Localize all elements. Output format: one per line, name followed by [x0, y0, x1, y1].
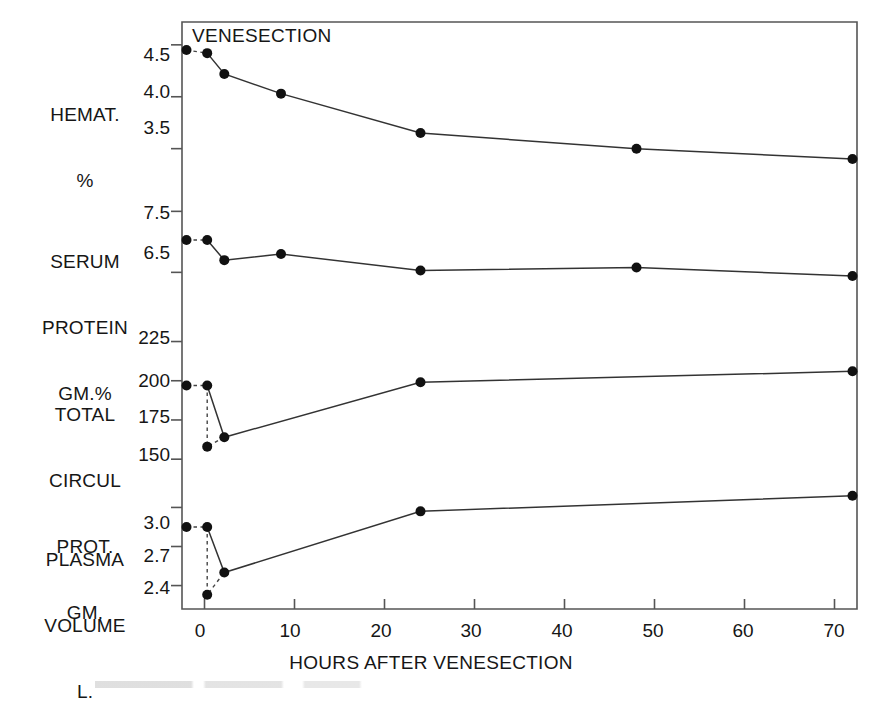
- series-hemat--line: [207, 53, 852, 159]
- series-serum-protein-gm--point-4: [632, 262, 642, 272]
- series-plasma-volume-l--point-drop: [202, 590, 212, 600]
- series-total-circul-prot-gm--point-3: [848, 366, 858, 376]
- series-total-circul-prot-gm--point-0: [202, 380, 212, 390]
- series-plasma-volume-l--point-2: [416, 506, 426, 516]
- series-plasma-volume-l--line: [207, 496, 852, 573]
- series-hemat--point-pre: [182, 45, 192, 55]
- series-hemat--point-4: [632, 144, 642, 154]
- plot-frame: [182, 22, 857, 609]
- series-serum-protein-gm--point-1: [219, 255, 229, 265]
- series-hemat--point-3: [416, 128, 426, 138]
- series-plasma-volume-l--point-0: [202, 522, 212, 532]
- series-plasma-volume-l--dashed-drop: [207, 527, 224, 595]
- series-total-circul-prot-gm--point-drop: [202, 442, 212, 452]
- series-total-circul-prot-gm--line: [207, 371, 852, 437]
- series-serum-protein-gm--line: [207, 240, 852, 276]
- series-serum-protein-gm--point-5: [848, 271, 858, 281]
- series-total-circul-prot-gm--point-1: [219, 432, 229, 442]
- page-scan-artifact: [95, 681, 395, 688]
- series-hemat--point-5: [848, 154, 858, 164]
- series-hemat--point-1: [219, 69, 229, 79]
- series-hemat--point-2: [276, 89, 286, 99]
- series-total-circul-prot-gm--point-pre: [182, 380, 192, 390]
- series-total-circul-prot-gm--point-2: [416, 377, 426, 387]
- series-serum-protein-gm--point-0: [202, 235, 212, 245]
- series-serum-protein-gm--point-3: [416, 266, 426, 276]
- series-serum-protein-gm--point-2: [276, 249, 286, 259]
- series-plasma-volume-l--point-pre: [182, 522, 192, 532]
- series-hemat--point-0: [202, 48, 212, 58]
- series-serum-protein-gm--point-pre: [182, 235, 192, 245]
- series-plasma-volume-l--point-1: [219, 568, 229, 578]
- series-plasma-volume-l--point-3: [848, 491, 858, 501]
